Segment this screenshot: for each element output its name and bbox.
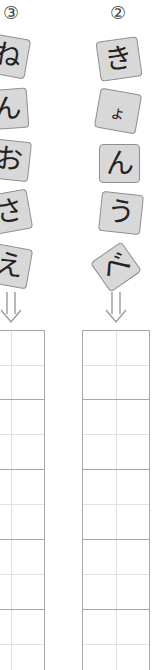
- grid-line: [0, 539, 44, 540]
- kana-tile[interactable]: ん: [99, 144, 140, 183]
- grid-center-guide: [11, 331, 12, 670]
- column-number-label: ②: [103, 2, 133, 24]
- tile-char: さ: [0, 196, 25, 228]
- tile-char: ん: [0, 94, 22, 124]
- grid-guide: [83, 365, 149, 366]
- kana-tile[interactable]: べ: [90, 241, 142, 292]
- grid-guide: [0, 574, 44, 575]
- double-down-arrow-icon: [0, 292, 23, 324]
- tile-char: ね: [0, 40, 23, 72]
- grid-line: [0, 609, 44, 610]
- grid-guide: [83, 574, 149, 575]
- grid-guide: [83, 504, 149, 505]
- grid-line: [83, 609, 149, 610]
- tile-char: ん: [106, 150, 134, 178]
- kana-tile[interactable]: さ: [0, 189, 33, 236]
- grid-guide: [0, 434, 44, 435]
- tile-char: う: [106, 198, 137, 229]
- writing-grid[interactable]: [82, 330, 150, 670]
- grid-line: [0, 469, 44, 470]
- grid-guide: [0, 644, 44, 645]
- writing-grid[interactable]: [0, 330, 45, 670]
- kana-tile[interactable]: ね: [0, 33, 31, 80]
- tile-char: ょ: [108, 105, 127, 124]
- grid-line: [83, 399, 149, 400]
- double-down-arrow-icon: [104, 292, 128, 324]
- grid-guide: [83, 434, 149, 435]
- tile-char: べ: [97, 248, 136, 287]
- kana-tile[interactable]: え: [0, 243, 33, 290]
- grid-line: [83, 539, 149, 540]
- grid-guide: [0, 504, 44, 505]
- tile-char: き: [103, 43, 135, 75]
- tile-char: お: [0, 145, 24, 176]
- kana-tile[interactable]: き: [95, 36, 142, 81]
- kana-tile[interactable]: お: [0, 138, 32, 182]
- kana-tile[interactable]: う: [98, 191, 144, 235]
- column-number-label: ③: [0, 2, 26, 24]
- grid-line: [0, 399, 44, 400]
- kana-tile[interactable]: ょ: [94, 88, 142, 135]
- kana-tile[interactable]: ん: [0, 88, 29, 131]
- grid-guide: [83, 644, 149, 645]
- grid-guide: [0, 365, 44, 366]
- tile-char: え: [0, 250, 25, 282]
- grid-center-guide: [116, 331, 117, 670]
- grid-line: [83, 469, 149, 470]
